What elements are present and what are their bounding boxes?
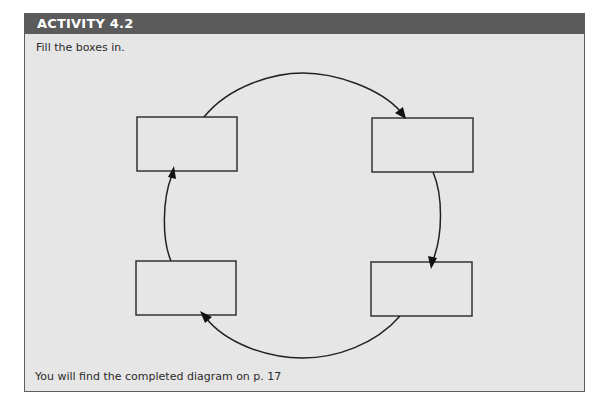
- arrow-bottom: [206, 316, 400, 358]
- box-bottom-left[interactable]: [136, 261, 236, 315]
- arrowhead-bottom-icon: [200, 311, 212, 323]
- arrow-top: [204, 73, 401, 117]
- cycle-diagram: [0, 0, 611, 415]
- arrowhead-top-icon: [395, 107, 406, 119]
- box-top-right[interactable]: [372, 118, 473, 172]
- arrow-right: [433, 172, 441, 260]
- arrowhead-left-icon: [168, 166, 176, 179]
- arrow-left: [164, 175, 172, 261]
- box-bottom-right[interactable]: [371, 262, 472, 316]
- box-top-left[interactable]: [137, 117, 237, 171]
